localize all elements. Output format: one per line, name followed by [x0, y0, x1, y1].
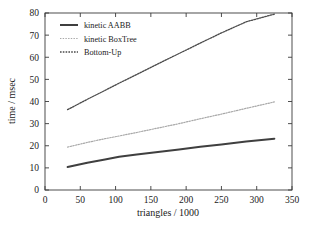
x-tick-label: 350 [285, 195, 300, 205]
x-tick-label: 50 [76, 195, 86, 205]
legend-label-kinetic-boxtree: kinetic BoxTree [84, 35, 137, 44]
y-axis-title: time / msec [6, 77, 17, 124]
y-tick-label: 10 [30, 163, 40, 173]
plot-canvas: 01020304050607080 050100150200250300350 … [0, 0, 316, 233]
legend-label-kinetic-aabb: kinetic AABB [84, 21, 131, 30]
x-tick-label: 100 [108, 195, 123, 205]
y-tick-label: 50 [30, 75, 40, 85]
x-tick-label: 150 [144, 195, 159, 205]
chart-figure: 01020304050607080 050100150200250300350 … [0, 0, 316, 233]
y-tick-label: 30 [30, 119, 40, 129]
y-tick-label: 20 [30, 141, 40, 151]
x-axis-title: triangles / 1000 [137, 207, 199, 218]
legend-label-bottom-up: Bottom-Up [84, 48, 121, 57]
y-tick-label: 70 [30, 31, 40, 41]
y-tick-label: 60 [30, 53, 40, 63]
y-tick-label: 80 [30, 8, 40, 18]
y-tick-label: 0 [34, 185, 39, 195]
x-tick-label: 0 [43, 195, 48, 205]
x-tick-label: 200 [179, 195, 194, 205]
x-tick-label: 250 [214, 195, 229, 205]
x-tick-label: 300 [250, 195, 265, 205]
y-tick-label: 40 [30, 97, 40, 107]
y-axis-tick-labels: 01020304050607080 [30, 8, 40, 195]
